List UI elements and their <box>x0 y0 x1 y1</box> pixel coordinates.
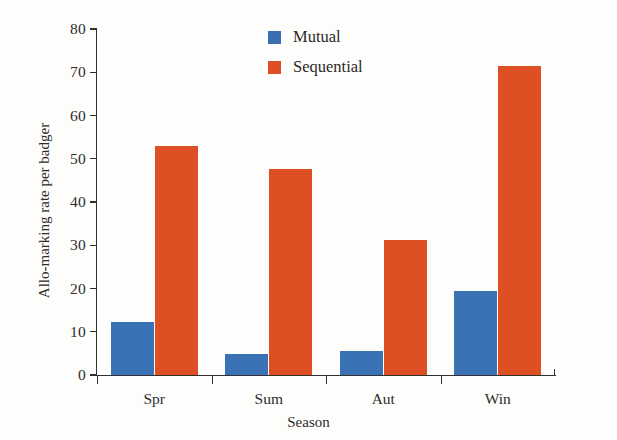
x-tick-label-spr: Spr <box>143 390 165 408</box>
x-tick-label-aut: Aut <box>372 390 395 408</box>
x-tick-mark <box>441 376 442 384</box>
legend-label-mutual: Mutual <box>293 27 341 47</box>
x-axis-title: Season <box>0 414 617 431</box>
y-tick-label: 60 <box>40 107 86 125</box>
y-tick-mark <box>90 245 97 246</box>
y-tick-label: 40 <box>40 193 86 211</box>
legend-swatch-sequential-icon <box>268 61 281 74</box>
y-tick-label: 30 <box>40 236 86 254</box>
x-tick-mark <box>97 376 98 384</box>
y-tick-mark <box>90 28 97 29</box>
y-tick-label: 20 <box>40 280 86 298</box>
legend-item-mutual[interactable]: Mutual <box>268 22 363 52</box>
bar-sequential-sum <box>269 169 312 375</box>
y-tick-mark <box>90 331 97 332</box>
x-tick-label-sum: Sum <box>255 390 283 408</box>
legend-swatch-mutual-icon <box>268 31 281 44</box>
x-tick-mark <box>212 376 213 384</box>
y-tick-mark <box>90 201 97 202</box>
y-tick-label: 10 <box>40 323 86 341</box>
bar-mutual-sum <box>225 354 268 375</box>
legend-item-sequential[interactable]: Sequential <box>268 52 363 82</box>
y-tick-mark <box>90 288 97 289</box>
bar-mutual-spr <box>111 322 154 375</box>
chart-legend: Mutual Sequential <box>268 22 363 82</box>
bar-sequential-aut <box>384 240 427 375</box>
y-tick-label: 80 <box>40 20 86 38</box>
y-tick-label: 0 <box>40 366 86 384</box>
bar-sequential-spr <box>155 146 198 375</box>
y-tick-mark <box>90 72 97 73</box>
legend-label-sequential: Sequential <box>293 57 363 77</box>
y-tick-mark <box>90 374 97 375</box>
bar-sequential-win <box>498 66 541 375</box>
x-tick-mark <box>326 376 327 384</box>
bar-mutual-win <box>454 291 497 375</box>
y-tick-label: 70 <box>40 63 86 81</box>
y-tick-label: 50 <box>40 150 86 168</box>
y-tick-mark <box>90 115 97 116</box>
x-tick-label-win: Win <box>485 390 511 408</box>
bar-mutual-aut <box>340 351 383 375</box>
y-tick-mark <box>90 158 97 159</box>
bar-chart-figure: Allo-marking rate per badger 01020304050… <box>0 0 617 440</box>
